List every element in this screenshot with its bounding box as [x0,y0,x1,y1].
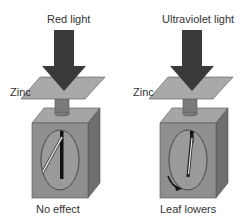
electroscope-diagram [0,0,242,220]
plate-label-left: Zinc [10,86,31,98]
plate-label-right: Zinc [133,86,154,98]
result-label-left: No effect [36,203,80,215]
window [169,130,207,190]
box-side [88,108,100,198]
box-side [216,108,228,198]
result-label-right: Leaf lowers [160,203,216,215]
light-label-red: Red light [47,13,90,25]
light-label-uv: Ultraviolet light [162,13,234,25]
rod [55,98,69,114]
panel-uv-light [149,30,233,198]
panel-red-light [21,30,105,198]
rod [183,98,197,114]
